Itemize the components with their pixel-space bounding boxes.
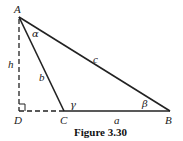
side-a-label: a: [114, 114, 120, 126]
angle-gamma-label: γ: [70, 99, 76, 110]
side-h-label: h: [8, 58, 14, 70]
vertex-d-label: D: [13, 114, 22, 126]
vertex-b-label: B: [165, 114, 172, 126]
triangle-diagram: A D C B h b c a α γ β Figure 3.30: [0, 0, 183, 141]
angle-alpha-label: α: [32, 28, 39, 39]
vertex-a-label: A: [13, 3, 21, 15]
side-c-label: c: [93, 53, 98, 65]
side-b-label: b: [39, 71, 45, 83]
figure-caption: Figure 3.30: [74, 126, 127, 138]
vertex-c-label: C: [60, 114, 68, 126]
angle-beta-label: β: [141, 98, 148, 109]
right-angle-marker: [19, 104, 25, 111]
